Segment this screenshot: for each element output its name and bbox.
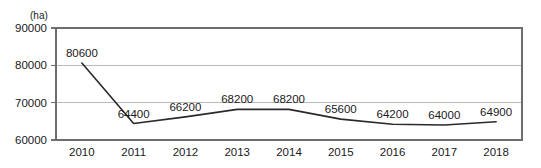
xtick-label-2010: 2010 [69, 146, 95, 158]
x-axis-tick-labels: 2010 2011 2012 2013 2014 2015 2016 2017 … [69, 146, 509, 158]
point-label-2017: 64000 [428, 109, 460, 121]
xtick-label-2013: 2013 [224, 146, 250, 158]
point-label-2011: 64400 [118, 108, 150, 120]
point-label-2010: 80600 [66, 47, 98, 59]
xtick-label-2017: 2017 [432, 146, 458, 158]
point-label-2013: 68200 [221, 93, 253, 105]
xtick-label-2015: 2015 [328, 146, 354, 158]
ytick-label-2: 70000 [15, 97, 47, 109]
y-axis-unit-label: (ha) [30, 10, 48, 21]
point-label-2015: 65600 [325, 103, 357, 115]
plot-frame [56, 28, 522, 140]
point-label-2014: 68200 [273, 93, 305, 105]
ytick-label-3: 60000 [15, 134, 47, 146]
chart-container: (ha) 90000 80000 70000 60000 2010 [0, 0, 541, 168]
xtick-label-2014: 2014 [276, 146, 302, 158]
xtick-label-2012: 2012 [173, 146, 199, 158]
xtick-label-2018: 2018 [483, 146, 509, 158]
y-axis-tick-labels: 90000 80000 70000 60000 [15, 22, 47, 146]
y-axis-ticks [51, 28, 56, 140]
plot-area-border [56, 28, 522, 140]
point-label-2016: 64200 [377, 108, 409, 120]
xtick-label-2011: 2011 [121, 146, 146, 158]
ytick-label-0: 90000 [15, 22, 47, 34]
ytick-label-1: 80000 [15, 59, 47, 71]
point-label-2018: 64900 [480, 106, 512, 118]
line-chart: (ha) 90000 80000 70000 60000 2010 [0, 0, 541, 168]
point-label-2012: 66200 [169, 101, 201, 113]
xtick-label-2016: 2016 [380, 146, 406, 158]
